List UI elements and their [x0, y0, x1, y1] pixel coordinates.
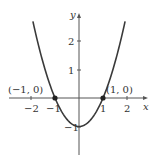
x-tick-label-1: 1 — [100, 103, 106, 114]
x-tick-label-neg1: −1 — [46, 103, 61, 114]
parabola-graph: (−1, 0) (1, 0) −2 −1 1 2 2 1 −1 x y — [0, 0, 156, 155]
point-label-neg1: (−1, 0) — [8, 84, 43, 95]
point-neg1-0 — [52, 95, 57, 100]
y-axis-label: y — [69, 9, 76, 20]
y-tick-label-2: 2 — [68, 36, 74, 47]
y-tick-label-1: 1 — [68, 65, 74, 76]
x-tick-label-2: 2 — [124, 103, 130, 114]
x-axis-label: x — [143, 101, 149, 112]
point-1-0 — [100, 95, 105, 100]
y-axis-arrow-icon — [77, 13, 81, 18]
y-tick-label-neg1: −1 — [64, 122, 79, 133]
x-axis-arrow-icon — [143, 96, 148, 100]
x-tick-label-neg2: −2 — [24, 103, 39, 114]
point-label-1: (1, 0) — [106, 84, 133, 95]
